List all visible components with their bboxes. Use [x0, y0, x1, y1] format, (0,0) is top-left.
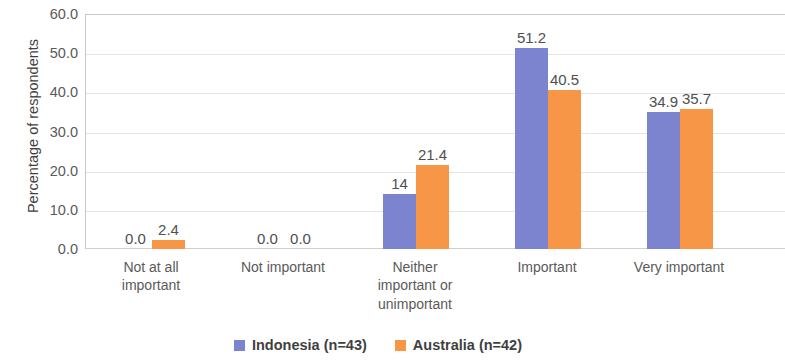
bar-value-label: 0.0	[125, 231, 146, 246]
bar-group: 34.935.7	[614, 15, 746, 249]
legend-label: Indonesia (n=43)	[252, 337, 367, 353]
x-axis-category-label: Not at allimportant	[85, 258, 217, 313]
bar-australia: 40.5	[548, 90, 581, 249]
bar-indonesia: 51.2	[515, 48, 548, 249]
bars: 0.02.4	[86, 15, 218, 249]
y-axis-tick-label: 60.0	[50, 6, 78, 22]
y-axis-tick-label: 50.0	[50, 45, 78, 61]
y-axis-tick-label: 40.0	[50, 84, 78, 100]
x-axis-label-line: Not important	[219, 258, 347, 276]
bars: 0.00.0	[218, 15, 350, 249]
bar-indonesia: 14	[383, 194, 416, 249]
bar-indonesia: 34.9	[647, 112, 680, 249]
x-axis-category-label: Important	[481, 258, 613, 313]
y-axis-tick-label: 30.0	[50, 124, 78, 140]
bars: 34.935.7	[614, 15, 746, 249]
x-axis-category-label: Neitherimportant orunimportant	[349, 258, 481, 313]
bar-group: 0.02.4	[86, 15, 218, 249]
x-axis-label-line: Neither	[351, 258, 479, 276]
bars: 1421.4	[350, 15, 482, 249]
bar-value-label: 0.0	[290, 231, 311, 246]
bar-group: 51.240.5	[482, 15, 614, 249]
y-axis-tick-label: 10.0	[50, 202, 78, 218]
bar-value-label: 21.4	[418, 147, 447, 162]
bar-value-label: 34.9	[649, 94, 678, 109]
y-axis-tick-labels: 60.050.040.030.020.010.00.0	[16, 0, 78, 260]
x-axis-label-line: Important	[483, 258, 611, 276]
x-axis-label-line: unimportant	[351, 295, 479, 313]
legend-item[interactable]: Indonesia (n=43)	[234, 337, 367, 353]
plot-area: 0.02.40.00.01421.451.240.534.935.7	[85, 14, 785, 249]
legend-label: Australia (n=42)	[413, 337, 522, 353]
x-axis-category-label: Very important	[613, 258, 745, 313]
bar-value-label: 51.2	[517, 30, 546, 45]
x-axis-label-line: important	[87, 276, 215, 294]
bar-group: 1421.4	[350, 15, 482, 249]
x-axis-label-line: Very important	[615, 258, 743, 276]
bar-value-label: 35.7	[682, 91, 711, 106]
legend-swatch-icon	[395, 340, 406, 351]
bar-value-label: 2.4	[158, 222, 179, 237]
bar-value-label: 40.5	[550, 72, 579, 87]
y-axis-tick-label: 20.0	[50, 163, 78, 179]
bars: 51.240.5	[482, 15, 614, 249]
chart-legend: Indonesia (n=43)Australia (n=42)	[0, 337, 756, 353]
bar-australia: 21.4	[416, 165, 449, 249]
bar-groups: 0.02.40.00.01421.451.240.534.935.7	[86, 15, 785, 249]
y-axis-tick-label: 0.0	[58, 241, 78, 257]
legend-item[interactable]: Australia (n=42)	[395, 337, 522, 353]
x-axis-label-line: Not at all	[87, 258, 215, 276]
bar-australia: 2.4	[152, 240, 185, 249]
bar-value-label: 14	[391, 176, 408, 191]
bar-australia: 35.7	[680, 109, 713, 249]
bar-group: 0.00.0	[218, 15, 350, 249]
x-axis-label-line: important or	[351, 276, 479, 294]
x-axis-category-label: Not important	[217, 258, 349, 313]
bar-value-label: 0.0	[257, 231, 278, 246]
x-axis-category-labels: Not at allimportantNot importantNeitheri…	[85, 258, 785, 313]
legend-swatch-icon	[234, 340, 245, 351]
